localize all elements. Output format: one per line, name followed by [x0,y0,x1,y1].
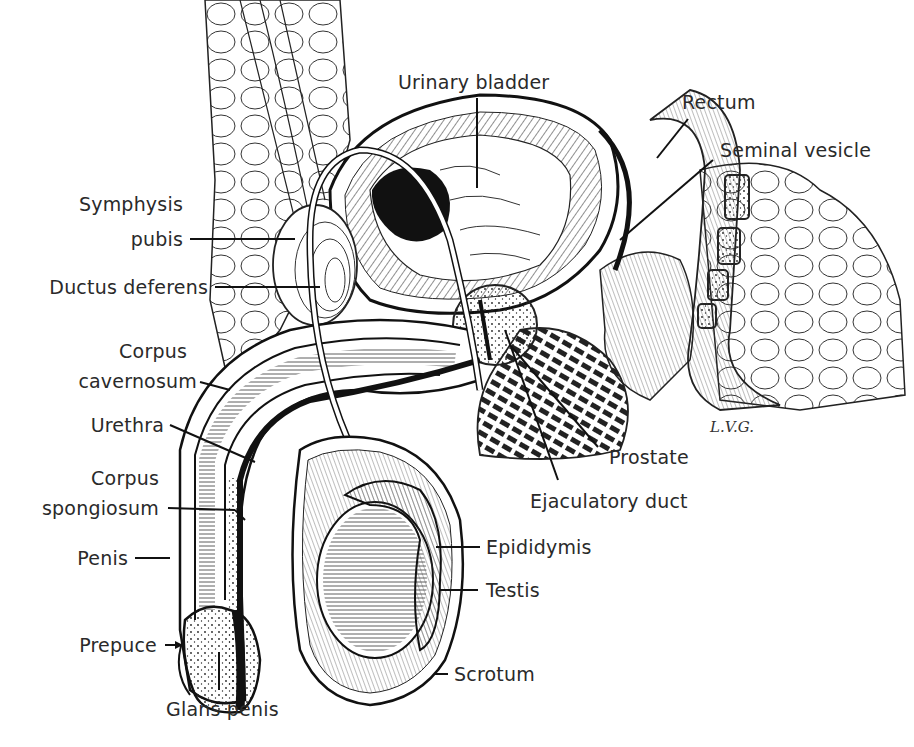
label-penis: Penis [40,547,128,569]
label-scrotum: Scrotum [454,663,535,685]
label-symphysis-pubis-line1: Symphysis [40,193,183,215]
urinary-bladder [330,95,629,313]
label-glans-penis: Glans penis [166,698,279,720]
label-testis: Testis [486,579,540,601]
label-epididymis: Epididymis [486,536,592,558]
anatomy-figure: Urinary bladder Rectum Seminal vesicle S… [0,0,914,747]
label-corpus-spongiosum-line2: spongiosum [20,497,159,519]
label-corpus-spongiosum-line1: Corpus [20,467,159,489]
label-corpus-cavernosum-line2: cavernosum [40,370,197,392]
label-rectum: Rectum [682,91,756,113]
label-ejaculatory-duct: Ejaculatory duct [530,490,688,512]
label-corpus-cavernosum-line1: Corpus [40,340,187,362]
label-prostate: Prostate [609,446,689,468]
label-ductus-deferens: Ductus deferens [20,276,208,298]
label-urinary-bladder: Urinary bladder [398,71,549,93]
label-seminal-vesicle: Seminal vesicle [720,139,871,161]
label-urethra: Urethra [40,414,164,436]
label-symphysis-pubis-line2: pubis [40,228,183,250]
label-prepuce: Prepuce [40,634,157,656]
artist-signature: L.V.G. [710,418,754,436]
